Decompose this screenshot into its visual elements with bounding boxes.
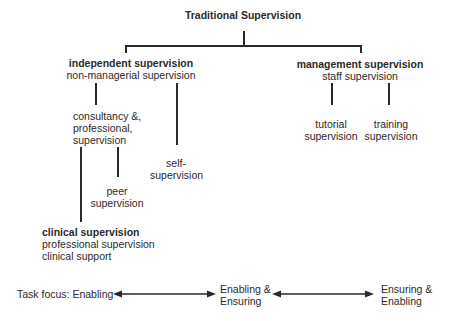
double-arrow-left-icon <box>113 291 216 298</box>
double-arrows <box>0 0 450 321</box>
double-arrow-right-icon <box>272 291 374 298</box>
